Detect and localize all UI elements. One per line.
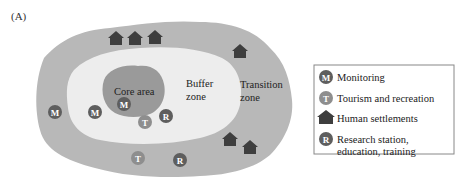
research-icon-letter: R xyxy=(323,135,330,145)
tourism-icon-letter: T xyxy=(323,94,329,104)
transition-zone-label-line1: Transition xyxy=(240,79,284,90)
panel-label: (A) xyxy=(11,10,27,23)
legend-item-tourism: T Tourism and recreation xyxy=(319,91,435,105)
marker-letter: M xyxy=(91,108,100,118)
marker-letter: T xyxy=(135,154,141,164)
marker-r-buffer: R xyxy=(159,109,173,123)
marker-m-transition: M xyxy=(48,105,62,119)
buffer-zone-label-line2: zone xyxy=(186,91,206,102)
marker-t-transition: T xyxy=(131,151,145,165)
legend-item-monitoring: M Monitoring xyxy=(319,70,386,84)
legend-label-settlements: Human settlements xyxy=(337,113,418,124)
marker-letter: R xyxy=(177,156,184,166)
legend: M Monitoring T Tourism and recreation Hu… xyxy=(314,65,454,157)
marker-r-transition: R xyxy=(173,153,187,167)
marker-m-buffer: M xyxy=(88,105,102,119)
monitoring-icon-letter: M xyxy=(322,73,331,83)
legend-label-research-line1: Research station, xyxy=(337,134,409,145)
legend-label-tourism: Tourism and recreation xyxy=(337,93,435,104)
legend-label-monitoring: Monitoring xyxy=(337,72,386,83)
core-area-label: Core area xyxy=(114,86,155,97)
marker-letter: M xyxy=(51,108,60,118)
biosphere-reserve-diagram: (A) Core area Buffer zone Transition zon… xyxy=(0,0,473,189)
marker-letter: R xyxy=(163,112,170,122)
buffer-zone-label-line1: Buffer xyxy=(186,78,214,89)
marker-letter: M xyxy=(120,100,129,110)
marker-m-core: M xyxy=(117,97,131,111)
marker-letter: T xyxy=(142,118,148,128)
marker-t-buffer: T xyxy=(138,115,152,129)
legend-label-research-line2: education, training xyxy=(337,146,416,157)
transition-zone-label-line2: zone xyxy=(240,92,260,103)
